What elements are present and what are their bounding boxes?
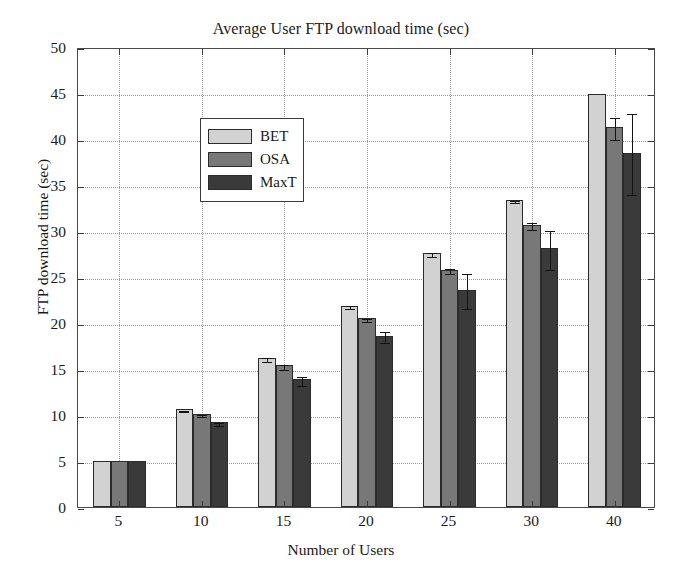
y-tick-mark xyxy=(648,141,654,142)
y-tick-mark xyxy=(78,187,84,188)
x-tick-label: 20 xyxy=(358,512,374,530)
y-tick-mark xyxy=(648,463,654,464)
x-tick-label: 25 xyxy=(441,512,457,530)
y-tick-mark xyxy=(78,463,84,464)
y-tick-mark xyxy=(648,95,654,96)
x-tick-mark xyxy=(615,501,616,507)
y-tick-mark xyxy=(78,371,84,372)
y-tick-mark xyxy=(648,49,654,50)
x-axis-tick-labels: 5101520253040 xyxy=(77,512,655,538)
x-tick-label: 10 xyxy=(193,512,209,530)
y-tick-label: 45 xyxy=(51,85,67,103)
x-tick-label: 40 xyxy=(606,512,622,530)
y-tick-mark xyxy=(648,417,654,418)
x-tick-mark xyxy=(119,501,120,507)
y-tick-mark xyxy=(78,141,84,142)
legend-item-osa: OSA xyxy=(208,148,296,171)
x-tick-mark xyxy=(532,49,533,55)
legend-label-maxt: MaxT xyxy=(260,175,297,190)
x-tick-mark xyxy=(367,49,368,55)
x-tick-mark xyxy=(284,501,285,507)
legend-label-osa: OSA xyxy=(260,152,290,167)
x-tick-mark xyxy=(202,49,203,55)
x-tick-mark xyxy=(119,49,120,55)
x-tick-mark xyxy=(202,501,203,507)
y-tick-mark xyxy=(78,95,84,96)
x-tick-label: 15 xyxy=(276,512,292,530)
legend-swatch-maxt xyxy=(208,175,252,190)
x-tick-mark xyxy=(615,49,616,55)
legend-swatch-osa xyxy=(208,152,252,167)
y-tick-label: 25 xyxy=(51,269,67,287)
y-tick-mark xyxy=(78,417,84,418)
y-tick-label: 50 xyxy=(51,39,67,57)
legend-item-bet: BET xyxy=(208,125,296,148)
y-tick-label: 5 xyxy=(58,453,66,471)
y-tick-label: 0 xyxy=(58,499,66,517)
y-tick-mark xyxy=(648,509,654,510)
y-tick-label: 10 xyxy=(51,407,67,425)
plot-area: BET OSA MaxT xyxy=(77,48,655,508)
x-tick-mark xyxy=(450,501,451,507)
chart-legend: BET OSA MaxT xyxy=(200,118,304,202)
axis-tick-marks xyxy=(78,49,654,507)
y-tick-mark xyxy=(648,371,654,372)
y-tick-label: 35 xyxy=(51,177,67,195)
y-tick-mark xyxy=(648,187,654,188)
y-tick-mark xyxy=(648,233,654,234)
x-tick-label: 5 xyxy=(114,512,122,530)
x-axis-title: Number of Users xyxy=(0,541,682,559)
legend-label-bet: BET xyxy=(260,129,288,144)
y-tick-mark xyxy=(648,325,654,326)
x-tick-label: 30 xyxy=(523,512,539,530)
y-tick-mark xyxy=(78,49,84,50)
y-tick-mark xyxy=(78,279,84,280)
y-tick-mark xyxy=(648,279,654,280)
x-tick-mark xyxy=(284,49,285,55)
y-axis-title: FTP download time (sec) xyxy=(34,87,52,387)
x-tick-mark xyxy=(450,49,451,55)
y-tick-label: 20 xyxy=(51,315,67,333)
chart-figure: Average User FTP download time (sec) 051… xyxy=(0,0,682,584)
legend-swatch-bet xyxy=(208,129,252,144)
y-tick-mark xyxy=(78,233,84,234)
y-tick-mark xyxy=(78,325,84,326)
y-tick-label: 30 xyxy=(51,223,67,241)
y-tick-label: 15 xyxy=(51,361,67,379)
y-tick-mark xyxy=(78,509,84,510)
chart-title: Average User FTP download time (sec) xyxy=(0,20,682,38)
x-tick-mark xyxy=(532,501,533,507)
legend-item-maxt: MaxT xyxy=(208,171,296,194)
y-tick-label: 40 xyxy=(51,131,67,149)
x-tick-mark xyxy=(367,501,368,507)
